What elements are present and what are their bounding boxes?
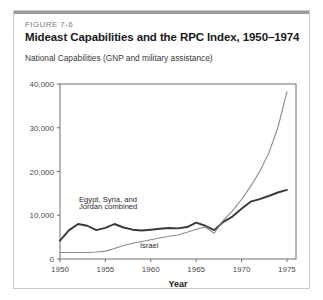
series-annotation: Jordan combined <box>79 202 137 211</box>
y-axis-tick-labels: 010,00020,00030,00040,000 <box>30 80 55 264</box>
x-tick-label: 1965 <box>187 265 205 274</box>
plot-frame <box>60 84 296 259</box>
figure-card: FIGURE 7-6 Mideast Capabilities and the … <box>13 10 310 289</box>
y-tick-label: 20,000 <box>30 168 55 177</box>
y-tick-label: 10,000 <box>30 211 55 220</box>
x-axis-tick-labels: 195019551960196519701975 <box>51 265 296 274</box>
x-tick-label: 1960 <box>142 265 160 274</box>
chart-plot-area: 010,00020,00030,00040,000 19501955196019… <box>14 11 311 290</box>
x-axis-title: Year <box>168 279 188 289</box>
x-tick-label: 1970 <box>233 265 251 274</box>
x-tick-label: 1950 <box>51 265 69 274</box>
x-tick-label: 1975 <box>278 265 296 274</box>
y-tick-label: 40,000 <box>30 80 55 89</box>
series-annotations: Egypt, Syria, andJordan combinedIsrael <box>79 195 159 250</box>
line-chart: 010,00020,00030,00040,000 19501955196019… <box>14 11 311 290</box>
series-annotation: Israel <box>140 241 159 250</box>
x-tick-label: 1955 <box>96 265 114 274</box>
y-tick-label: 30,000 <box>30 124 55 133</box>
y-tick-label: 0 <box>50 255 55 264</box>
